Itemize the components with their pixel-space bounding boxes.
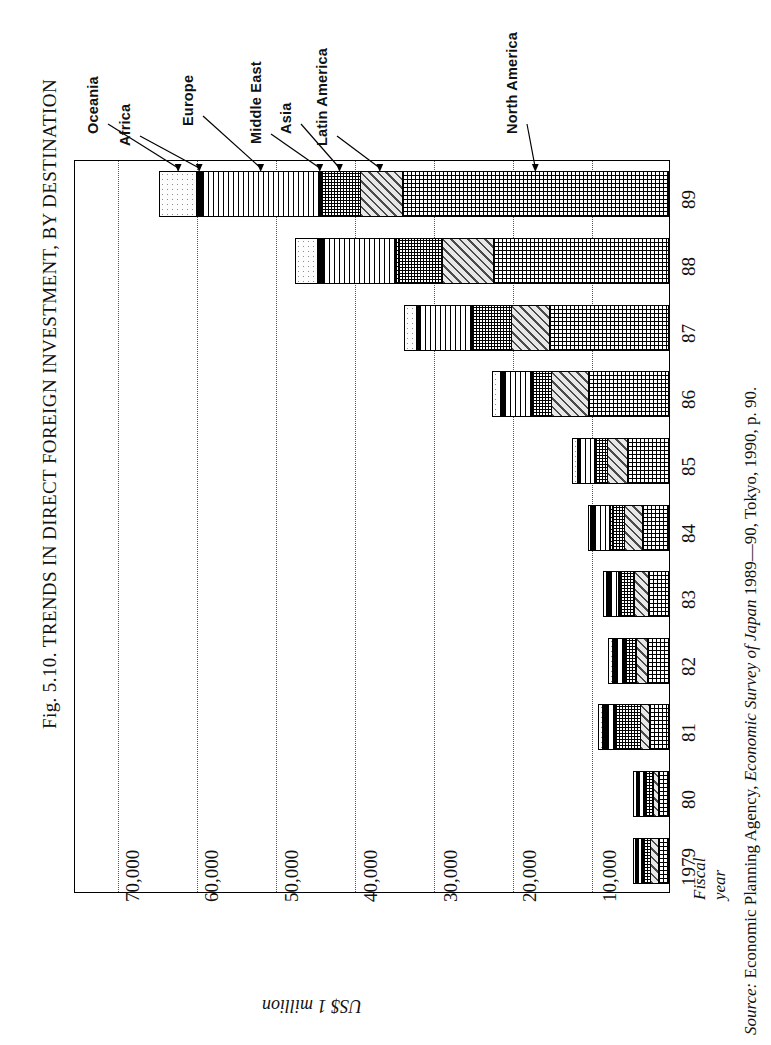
bar-segment-europe — [595, 506, 610, 550]
source-body-2: 1989—90, Tokyo, 1990, p. 90. — [741, 387, 760, 600]
fiscal-line-1: Fiscal — [690, 858, 710, 901]
value-tick-20000: 20,000 — [519, 850, 541, 902]
bar-84 — [588, 505, 669, 551]
bar-88 — [295, 238, 669, 284]
bar-segment-europe — [608, 705, 615, 749]
bar-segment-latin — [637, 639, 648, 683]
gridline — [276, 161, 277, 892]
bar-segment-asia — [646, 772, 654, 816]
bar-segment-namerica — [643, 506, 668, 550]
bar-segment-asia — [533, 372, 552, 416]
bar-segment-latin — [641, 705, 650, 749]
value-tick-50000: 50,000 — [281, 850, 303, 902]
bar-83 — [603, 571, 669, 617]
bar-82 — [608, 638, 669, 684]
bar-segment-asia — [473, 306, 512, 350]
callout-label-north-america: North America — [504, 32, 520, 134]
callout-label-asia: Asia — [278, 103, 294, 134]
bar-segment-namerica — [403, 172, 668, 216]
callout-label-latin-america: Latin America — [314, 48, 330, 146]
bar-segment-asia — [613, 506, 626, 550]
callout-label-europe: Europe — [180, 75, 196, 126]
bar-segment-europe — [580, 439, 595, 483]
year-tick-84: 84 — [678, 524, 700, 543]
source-note: Source: Economic Planning Agency, Econom… — [741, 387, 761, 1035]
bar-segment-europe — [617, 639, 624, 683]
callout-label-middle-east: Middle East — [248, 61, 264, 144]
bar-segment-latin — [608, 439, 628, 483]
year-tick-87: 87 — [678, 324, 700, 343]
year-tick-82: 82 — [678, 657, 700, 676]
callout-label-oceania: Oceania — [85, 76, 101, 134]
bar-segment-namerica — [550, 306, 668, 350]
value-tick-70000: 70,000 — [122, 850, 144, 902]
year-tick-89: 89 — [678, 190, 700, 209]
bar-segment-latin — [512, 306, 550, 350]
bar-segment-latin — [552, 372, 589, 416]
bar-1979 — [633, 838, 669, 884]
source-body-1: Economic Planning Agency, — [741, 781, 760, 982]
gridline — [118, 161, 119, 892]
source-title-italic: Economic Survey of Japan — [741, 600, 760, 782]
callout-arrow-latin-america — [331, 130, 386, 174]
bar-segment-asia — [644, 839, 651, 883]
bar-segment-namerica — [648, 639, 668, 683]
page-title: Fig. 5.10. TRENDS IN DIRECT FOREIGN INVE… — [39, 0, 61, 729]
bar-segment-asia — [596, 439, 607, 483]
bar-segment-namerica — [628, 439, 668, 483]
bar-segment-latin — [361, 172, 403, 216]
bar-segment-asia — [399, 239, 443, 283]
bar-segment-europe — [324, 239, 396, 283]
year-tick-88: 88 — [678, 257, 700, 276]
year-tick-80: 80 — [678, 790, 700, 809]
bar-segment-oceania — [296, 239, 318, 283]
callout-arrow-north-america — [521, 118, 541, 174]
callout-label-africa: Africa — [117, 104, 133, 146]
year-tick-83: 83 — [678, 590, 700, 609]
bar-segment-namerica — [659, 772, 668, 816]
bar-segment-namerica — [589, 372, 668, 416]
bar-segment-latin — [443, 239, 494, 283]
bar-segment-namerica — [649, 572, 668, 616]
value-tick-30000: 30,000 — [440, 850, 462, 902]
bar-87 — [404, 305, 669, 351]
bar-segment-europe — [505, 372, 532, 416]
bar-segment-oceania — [160, 172, 197, 216]
source-label: Source: — [741, 983, 760, 1035]
bar-89 — [159, 171, 669, 217]
fiscal-year-caption: Fiscal year — [690, 858, 730, 901]
bar-segment-latin — [625, 506, 642, 550]
bar-segment-oceania — [493, 372, 502, 416]
bar-segment-namerica — [659, 839, 668, 883]
bar-segment-latin — [635, 572, 649, 616]
callout-arrow-africa — [134, 130, 205, 174]
bar-segment-asia — [621, 572, 635, 616]
bar-80 — [633, 771, 669, 817]
fiscal-line-2: year — [710, 858, 730, 901]
bar-segment-oceania — [405, 306, 417, 350]
bar-segment-europe — [420, 306, 472, 350]
year-tick-85: 85 — [678, 457, 700, 476]
bar-segment-europe — [203, 172, 320, 216]
value-tick-10000: 10,000 — [599, 850, 621, 902]
bar-segment-namerica — [650, 705, 668, 749]
chart-plot-area — [74, 160, 670, 893]
axis-unit-label: US$ 1 million — [262, 995, 362, 1016]
bar-segment-asia — [322, 172, 361, 216]
bar-segment-asia — [616, 705, 641, 749]
gridline — [197, 161, 198, 892]
year-tick-81: 81 — [678, 723, 700, 742]
bar-85 — [572, 438, 669, 484]
value-tick-60000: 60,000 — [201, 850, 223, 902]
bar-81 — [598, 704, 669, 750]
bar-segment-latin — [651, 839, 659, 883]
bar-86 — [492, 371, 669, 417]
bar-segment-namerica — [494, 239, 668, 283]
value-tick-40000: 40,000 — [360, 850, 382, 902]
bar-segment-asia — [626, 639, 637, 683]
bar-segment-europe — [611, 572, 619, 616]
year-tick-86: 86 — [678, 390, 700, 409]
